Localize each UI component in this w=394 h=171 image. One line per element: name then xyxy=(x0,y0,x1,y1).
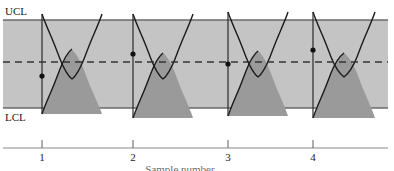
chart-canvas: UCL LCL 1 2 3 4 Sample number xyxy=(0,0,394,171)
ucl-label: UCL xyxy=(5,5,27,17)
lcl-label: LCL xyxy=(5,111,26,123)
control-chart-figure: UCL LCL 1 2 3 4 Sample number xyxy=(0,0,394,171)
x-axis-tick-label-4: 4 xyxy=(310,151,316,163)
x-axis-tick-label-1: 1 xyxy=(39,151,45,163)
x-axis-title: Sample number xyxy=(145,163,215,171)
x-axis-tick-label-2: 2 xyxy=(130,151,136,163)
sample-point-1 xyxy=(39,73,44,78)
sample-point-2 xyxy=(130,51,135,56)
sample-point-3 xyxy=(225,61,230,66)
sample-point-4 xyxy=(310,47,315,52)
x-axis-tick-label-3: 3 xyxy=(225,151,231,163)
